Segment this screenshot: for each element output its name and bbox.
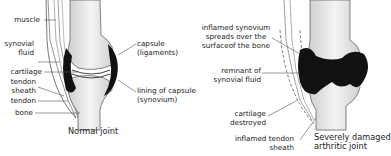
normal-joint-illustration — [35, 0, 136, 130]
label-lining-1: lining of capsule — [137, 87, 196, 95]
arthritic-joint-illustration — [262, 0, 368, 140]
label-capsule-2: (ligaments) — [137, 49, 178, 57]
label-tendon-sheath-2: sheath — [12, 87, 37, 95]
label-cartilage-destroyed-1: cartilage — [234, 110, 266, 118]
caption-normal-joint: Normal joint — [68, 127, 118, 136]
label-bone: bone — [15, 109, 33, 117]
label-tendon: tendon — [11, 97, 36, 105]
label-tendon-sheath-1: tendon — [11, 78, 36, 86]
label-lining-2: (synovium) — [137, 96, 177, 104]
label-remnant-2: synovial fluid — [213, 76, 261, 84]
label-synovial-fluid-2: fluid — [18, 49, 34, 57]
label-capsule-1: capsule — [137, 40, 165, 48]
label-inflamed-tendon-sheath-1: inflamed tendon — [235, 135, 294, 143]
label-cartilage-destroyed-2: destroyed — [230, 119, 266, 127]
label-remnant-1: remnant of — [221, 67, 261, 75]
label-cartilage: cartilage — [10, 68, 42, 76]
label-inflamed-tendon-sheath-2: sheath — [270, 144, 295, 152]
label-muscle: muscle — [14, 16, 40, 24]
label-inflamed-synovium-1: inflamed synovium — [196, 24, 276, 32]
label-inflamed-synovium-3: surfaceof the bone — [196, 42, 276, 50]
caption-arthritic-joint-2: arthritic joint — [314, 142, 367, 151]
label-inflamed-synovium-2: spreads over the — [196, 33, 276, 41]
label-synovial-fluid-1: synovial — [4, 40, 34, 48]
